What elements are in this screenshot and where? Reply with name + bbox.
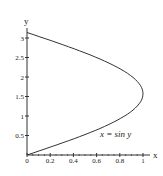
x-tick-label: 1 — [141, 157, 145, 165]
x-tick-label: 0.2 — [46, 157, 55, 165]
x-tick-label: 0.8 — [115, 157, 124, 165]
x-tick-label: 0 — [25, 157, 29, 165]
axis-ticks: 00.20.40.60.810.511.522.53 — [15, 35, 145, 166]
chart-plot: y x 00.20.40.60.810.511.522.53 x = sin y — [0, 0, 163, 176]
y-tick-label: 1 — [21, 113, 25, 121]
y-tick-label: 2.5 — [15, 54, 24, 62]
y-axis-label: y — [24, 16, 29, 26]
x-tick-label: 0.4 — [69, 157, 78, 165]
y-tick-label: 3 — [21, 35, 25, 43]
x-axis-label: x — [153, 150, 158, 160]
curve-annotation: x = sin y — [99, 129, 131, 139]
x-tick-label: 0.6 — [92, 157, 101, 165]
y-tick-label: 0.5 — [15, 132, 24, 140]
y-tick-label: 2 — [21, 74, 25, 82]
y-tick-label: 1.5 — [15, 93, 24, 101]
y-axis: y — [24, 16, 29, 155]
